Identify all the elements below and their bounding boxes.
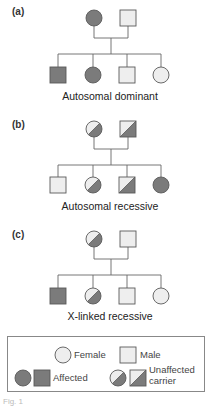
legend-female-symbol [55, 347, 71, 363]
legend-affected-label: Affected [53, 373, 88, 383]
legend-male-symbol [120, 347, 136, 363]
legend-female-label: Female [74, 350, 106, 360]
legend-affected-male-symbol [34, 370, 50, 386]
legend-carrier-label-1: Unaffected [149, 365, 195, 375]
legend-carrier-female-symbol [110, 370, 126, 386]
legend-carrier-male-symbol [130, 370, 146, 386]
legend-carrier-label-2: carrier [149, 376, 176, 386]
figure-caption: Fig. 1 [3, 397, 23, 406]
legend-affected-female-symbol [15, 370, 31, 386]
legend-male-label: Male [140, 350, 161, 360]
